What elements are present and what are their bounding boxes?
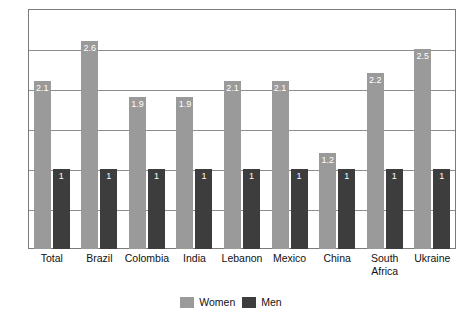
bar-men[interactable]: 1 xyxy=(243,169,260,249)
bar-group: 1.21 xyxy=(313,9,361,249)
bar-value-label: 2.1 xyxy=(272,83,289,93)
bars-layer: 2.112.611.911.912.112.111.212.212.51 xyxy=(28,9,456,249)
bar-group: 2.11 xyxy=(266,9,314,249)
bar-value-label: 2.1 xyxy=(224,83,241,93)
bar-group: 1.91 xyxy=(171,9,219,249)
bar-value-label: 1 xyxy=(195,171,212,181)
bar-women[interactable]: 2.1 xyxy=(224,81,241,249)
bar-value-label: 1.9 xyxy=(176,99,193,109)
bar-women[interactable]: 2.2 xyxy=(367,73,384,249)
bar-value-label: 1 xyxy=(148,171,165,181)
legend-item[interactable]: Men xyxy=(242,296,281,308)
bar-women[interactable]: 2.1 xyxy=(272,81,289,249)
bar-women[interactable]: 1.2 xyxy=(319,153,336,249)
bar-women[interactable]: 2.5 xyxy=(414,49,431,249)
bar-value-label: 1 xyxy=(243,171,260,181)
bar-men[interactable]: 1 xyxy=(195,169,212,249)
bar-value-label: 2.2 xyxy=(367,75,384,85)
x-axis-label: Lebanon xyxy=(218,252,266,277)
bar-men[interactable]: 1 xyxy=(338,169,355,249)
bar-men[interactable]: 1 xyxy=(148,169,165,249)
bar-value-label: 1 xyxy=(291,171,308,181)
bar-women[interactable]: 1.9 xyxy=(176,97,193,249)
bar-value-label: 1.9 xyxy=(129,99,146,109)
legend-item[interactable]: Women xyxy=(180,296,235,308)
bar-men[interactable]: 1 xyxy=(53,169,70,249)
bar-women[interactable]: 1.9 xyxy=(129,97,146,249)
bar-value-label: 1 xyxy=(53,171,70,181)
bar-group: 2.51 xyxy=(409,9,457,249)
legend-label: Men xyxy=(261,296,281,308)
legend-label: Women xyxy=(199,296,235,308)
legend-swatch-icon xyxy=(180,297,194,308)
x-axis-label: Ukraine xyxy=(409,252,457,277)
x-axis-label: Brazil xyxy=(76,252,124,277)
x-axis-label: Mexico xyxy=(266,252,314,277)
x-axis-labels: TotalBrazilColombiaIndiaLebanonMexicoChi… xyxy=(28,252,456,277)
x-axis-label: Total xyxy=(28,252,76,277)
chart-legend: WomenMen xyxy=(0,296,462,308)
x-axis-label: India xyxy=(171,252,219,277)
bar-group: 2.61 xyxy=(76,9,124,249)
bar-group: 2.21 xyxy=(361,9,409,249)
bar-value-label: 1 xyxy=(338,171,355,181)
bar-value-label: 2.1 xyxy=(34,83,51,93)
bar-women[interactable]: 2.1 xyxy=(34,81,51,249)
bar-chart: Odds Ratio of Major Depressive Episode 2… xyxy=(0,0,462,320)
bar-value-label: 1 xyxy=(100,171,117,181)
bar-value-label: 1 xyxy=(386,171,403,181)
legend-swatch-icon xyxy=(242,297,256,308)
bar-men[interactable]: 1 xyxy=(386,169,403,249)
bar-group: 2.11 xyxy=(218,9,266,249)
x-axis-label: China xyxy=(313,252,361,277)
bar-group: 2.11 xyxy=(28,9,76,249)
x-axis-label: Colombia xyxy=(123,252,171,277)
bar-value-label: 2.5 xyxy=(414,51,431,61)
x-axis-label: South Africa xyxy=(361,252,409,277)
bar-women[interactable]: 2.6 xyxy=(81,41,98,249)
bar-value-label: 1.2 xyxy=(319,155,336,165)
bar-value-label: 2.6 xyxy=(81,43,98,53)
bar-men[interactable]: 1 xyxy=(291,169,308,249)
bar-group: 1.91 xyxy=(123,9,171,249)
bar-men[interactable]: 1 xyxy=(100,169,117,249)
bar-men[interactable]: 1 xyxy=(433,169,450,249)
bar-value-label: 1 xyxy=(433,171,450,181)
